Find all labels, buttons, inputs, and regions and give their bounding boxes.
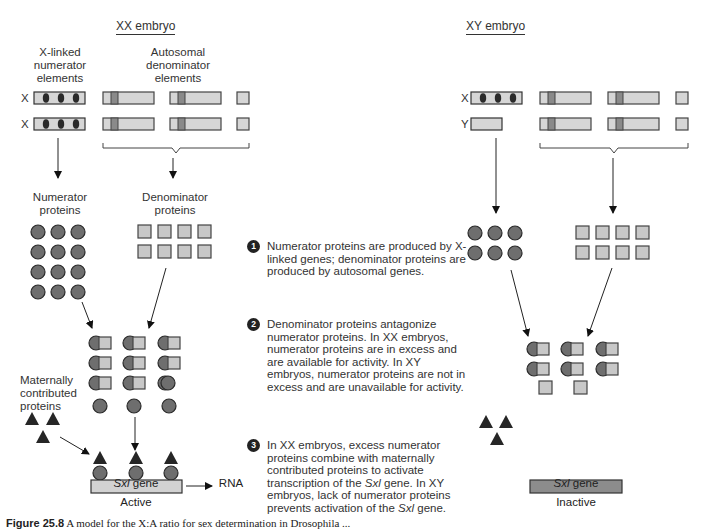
xy-sxl-gene-suffix: gene [570, 477, 599, 489]
xx-complex-denominator [99, 357, 111, 369]
xx-numerator-to-complex-arrow [82, 302, 92, 328]
step-2: 2 Denominator proteins antagonize numera… [267, 318, 467, 394]
xx-sxl-gene-label: Sxl gene [90, 477, 182, 489]
xx-complex-denominator [133, 377, 145, 389]
xy-small-autosome-2 [676, 118, 688, 130]
xy-denominator-to-complex-arrow [588, 268, 612, 336]
x-linked-numerator-elements-label: X-linked numerator elements [20, 46, 100, 85]
xx-embryo-title: XX embryo [116, 19, 175, 35]
denominator-gene-band [616, 118, 623, 130]
xx-chromosome-label-1: X [21, 92, 29, 104]
xy-free-denominator [539, 381, 552, 394]
xy-denominator-protein [636, 246, 649, 259]
xy-chromosome-label-1: X [461, 92, 469, 104]
xx-denominator-protein [178, 245, 191, 258]
xx-autosome-bracket [103, 143, 249, 153]
xx-numerator-protein [71, 285, 85, 299]
xx-complex-denominator [168, 357, 180, 369]
xx-numerator-protein [51, 225, 65, 239]
step-number-3: 3 [247, 439, 260, 452]
numerator-gene-locus [58, 93, 64, 103]
xy-complex-denominator [606, 343, 618, 355]
xy-complex-denominator [537, 343, 549, 355]
xx-free-numerator [162, 399, 176, 413]
xy-y-chromosome [471, 118, 502, 130]
denominator-gene-band [616, 92, 623, 104]
numerator-gene-locus [43, 93, 49, 103]
xy-autosome-bracket [540, 143, 688, 153]
xy-numerator-protein [488, 226, 502, 240]
step-text-1: Numerator proteins are produced by X-lin… [267, 240, 466, 277]
xy-denominator-protein [636, 226, 649, 239]
numerator-gene-locus [480, 93, 486, 103]
denominator-gene-band [548, 118, 555, 130]
xx-complex-denominator [133, 357, 145, 369]
xy-numerator-protein [468, 226, 482, 240]
xy-numerator-to-complex-arrow [511, 270, 528, 336]
figure-number: Figure 25.8 [6, 517, 64, 529]
xx-small-autosome-1 [237, 92, 249, 104]
xx-maternal-triangle [36, 430, 50, 443]
xy-maternal-triangle [479, 415, 493, 428]
xy-numerator-protein [508, 226, 522, 240]
xx-small-autosome-2 [237, 118, 249, 130]
gene-bound-maternal [164, 451, 178, 464]
numerator-gene-locus [73, 93, 79, 103]
xy-chromosome-label-2: Y [461, 118, 469, 130]
xx-denominator-protein [198, 245, 211, 258]
xy-free-denominator [574, 381, 587, 394]
xy-complex-denominator [571, 343, 583, 355]
xy-complex-denominator [571, 363, 583, 375]
numerator-gene-locus [495, 93, 501, 103]
xx-numerator-protein [51, 285, 65, 299]
gene-bound-maternal [93, 451, 107, 464]
rna-label: RNA [216, 477, 246, 489]
xy-sxl-gene-name: Sxl [554, 477, 570, 489]
xx-numerator-protein [71, 225, 85, 239]
step-text-2: Denominator proteins antagonize numerato… [267, 318, 465, 393]
step-1: 1 Numerator proteins are produced by X-l… [267, 240, 467, 278]
xy-sxl-gene-label: Sxl gene [530, 477, 622, 489]
xx-numerator-protein [71, 265, 85, 279]
numerator-gene-locus [58, 119, 64, 129]
xy-maternal-triangle [490, 432, 504, 445]
xy-maternal-triangle [499, 415, 513, 428]
xy-denominator-protein [596, 226, 609, 239]
xy-numerator-protein [488, 246, 502, 260]
xy-numerator-protein [508, 246, 522, 260]
maternal-to-gene-arrow [60, 437, 89, 454]
xy-small-autosome-1 [676, 92, 688, 104]
xy-embryo-title: XY embryo [466, 19, 525, 35]
xy-denominator-protein [596, 246, 609, 259]
xx-numerator-protein [31, 225, 45, 239]
xx-maternal-triangle [25, 412, 39, 425]
xx-denominator-protein [178, 225, 191, 238]
xx-numerator-protein [71, 245, 85, 259]
denominator-gene-band [111, 92, 118, 104]
gene-bound-maternal [129, 451, 143, 464]
xx-numerator-protein [51, 265, 65, 279]
xx-free-numerator [161, 376, 175, 390]
autosomal-denominator-elements-label: Autosomal denominator elements [138, 46, 218, 85]
xx-maternal-triangle [46, 412, 60, 425]
numerator-gene-locus [73, 119, 79, 129]
xx-complex-denominator [99, 337, 111, 349]
xx-denominator-protein [158, 225, 171, 238]
xx-numerator-protein [31, 285, 45, 299]
figure-caption-text: A model for the X:A ratio for sex determ… [64, 517, 350, 529]
numerator-proteins-label: Numerator proteins [25, 191, 95, 217]
xx-free-numerator [93, 399, 107, 413]
xy-numerator-protein [468, 246, 482, 260]
xx-sxl-gene-suffix: gene [130, 477, 159, 489]
xy-status-inactive: Inactive [546, 496, 606, 508]
xx-numerator-protein [31, 265, 45, 279]
denominator-proteins-label: Denominator proteins [135, 191, 215, 217]
denominator-gene-band [178, 92, 185, 104]
step-number-1: 1 [247, 240, 260, 253]
xx-chromosome-label-2: X [21, 118, 29, 130]
xx-denominator-protein [138, 245, 151, 258]
xx-free-numerator [127, 399, 141, 413]
xy-denominator-protein [576, 226, 589, 239]
xx-sxl-gene-name: Sxl [114, 477, 130, 489]
step-text-3: In XX embryos, excess numerator proteins… [267, 439, 450, 514]
